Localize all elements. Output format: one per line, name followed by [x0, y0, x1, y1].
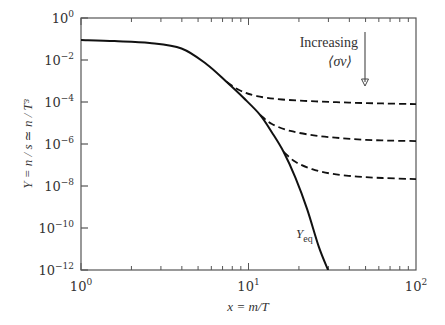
curves: [81, 40, 416, 270]
freeze-out-curve-3: [284, 152, 416, 179]
freeze-out-curve-2: [260, 115, 416, 141]
y-tick-label: 10−12: [38, 261, 74, 278]
x-axis-label: x = m/T: [226, 299, 269, 314]
yeq-curve: [81, 40, 328, 270]
y-axis-label: Y = n / s ≃ n / T³: [20, 98, 35, 188]
freeze-out-curve-1: [227, 82, 416, 104]
y-tick-label: 10−8: [44, 177, 74, 194]
plot-frame: [81, 18, 416, 270]
y-tick-label: 10−2: [44, 51, 74, 68]
yeq-label: Yeq: [296, 226, 313, 244]
x-tick-label: 101: [237, 277, 259, 294]
relic-abundance-chart: 10010110210010−210−410−610−810−1010−12 x…: [0, 0, 445, 325]
x-tick-label: 100: [70, 277, 93, 294]
y-tick-label: 10−10: [38, 219, 74, 236]
plot-border: [81, 18, 416, 270]
annotation-increasing: Increasing: [300, 35, 358, 50]
y-tick-label: 10−6: [44, 135, 74, 152]
axis-tick-labels: 10010110210010−210−410−610−810−1010−12: [38, 9, 427, 294]
yeq-label-sub: eq: [303, 233, 312, 244]
y-tick-label: 10−4: [44, 93, 74, 110]
annotation-sigma-v: ⟨σv⟩: [328, 54, 352, 69]
axis-ticks: [81, 18, 408, 270]
increasing-arrow-icon: [362, 32, 369, 86]
x-tick-label: 102: [405, 277, 427, 294]
y-tick-label: 100: [52, 9, 75, 26]
